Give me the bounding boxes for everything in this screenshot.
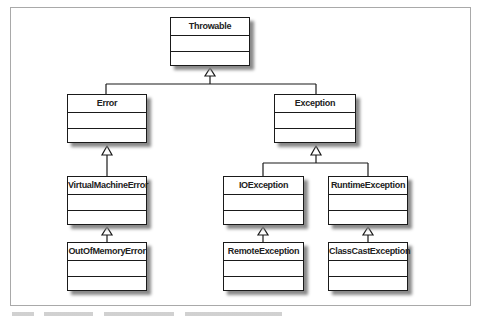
class-attributes [329, 261, 407, 277]
class-name: Throwable [171, 18, 249, 36]
class-name: RemoteException [224, 243, 303, 261]
class-name: RuntimeException [329, 177, 407, 195]
class-methods [224, 211, 303, 226]
class-attributes [224, 261, 303, 277]
class-attributes [68, 113, 146, 129]
class-remoteexception: RemoteException [223, 242, 304, 291]
class-name: Exception [275, 95, 355, 113]
class-methods [329, 211, 407, 226]
inheritance-arrow-icon [102, 146, 112, 155]
class-name: OutOfMemoryError [68, 243, 146, 261]
class-methods [171, 52, 249, 67]
class-attributes [68, 195, 146, 211]
clipped-caption [12, 310, 282, 316]
class-name: Error [68, 95, 146, 113]
class-classcastexception: ClassCastException [328, 242, 408, 291]
class-attributes [275, 113, 355, 129]
class-runtimeexception: RuntimeException [328, 176, 408, 225]
class-methods [224, 277, 303, 292]
inheritance-arrow-icon [205, 68, 215, 76]
class-name: VirtualMachineError [68, 177, 146, 195]
class-attributes [171, 36, 249, 52]
class-name: IOException [224, 177, 303, 195]
class-methods [329, 277, 407, 292]
class-methods [68, 129, 146, 144]
class-outofmemoryerror: OutOfMemoryError [67, 242, 147, 291]
class-methods [68, 211, 146, 226]
class-name: ClassCastException [329, 243, 407, 261]
class-throwable: Throwable [170, 17, 250, 66]
inheritance-arrow-icon [258, 227, 268, 235]
class-methods [68, 277, 146, 292]
class-exception: Exception [274, 94, 356, 143]
class-methods [275, 129, 355, 144]
inheritance-arrow-icon [311, 146, 321, 155]
class-attributes [224, 195, 303, 211]
class-error: Error [67, 94, 147, 143]
class-attributes [68, 261, 146, 277]
inheritance-arrow-icon [363, 227, 373, 235]
class-ioexception: IOException [223, 176, 304, 225]
class-attributes [329, 195, 407, 211]
class-virtualmachineerror: VirtualMachineError [67, 176, 147, 225]
inheritance-arrow-icon [102, 227, 112, 235]
